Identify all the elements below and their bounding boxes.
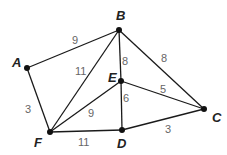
- edge-f-d: [50, 130, 122, 132]
- edge-weight-f-d: 11: [78, 136, 89, 148]
- edge-weight-b-e: 8: [122, 55, 128, 67]
- edge-b-e: [119, 30, 121, 81]
- node-f: [47, 129, 53, 135]
- edge-weight-e-d: 6: [123, 92, 129, 104]
- node-e: [118, 78, 124, 84]
- edge-weight-e-c: 5: [160, 83, 166, 95]
- edge-weight-b-c: 8: [161, 52, 167, 64]
- edge-d-c: [122, 109, 204, 130]
- edge-weight-d-c: 3: [165, 123, 171, 135]
- node-label-f: F: [34, 135, 43, 150]
- edge-e-f: [50, 81, 121, 132]
- edge-weight-a-b: 9: [72, 34, 78, 46]
- edge-b-c: [119, 30, 204, 109]
- node-label-a: A: [11, 55, 21, 70]
- node-label-c: C: [212, 110, 222, 125]
- edge-a-f: [27, 68, 50, 132]
- edge-e-d: [121, 81, 122, 130]
- node-c: [201, 106, 207, 112]
- edge-weight-b-f: 11: [75, 65, 86, 77]
- edge-weight-a-f: 3: [25, 103, 31, 115]
- node-label-e: E: [108, 70, 117, 85]
- node-d: [119, 127, 125, 133]
- node-b: [116, 27, 122, 33]
- edge-weight-e-f: 9: [88, 107, 94, 119]
- node-label-b: B: [116, 8, 125, 23]
- node-label-d: D: [117, 136, 127, 151]
- weighted-graph: 931188569113 ABCDEF: [0, 0, 227, 155]
- node-a: [24, 65, 30, 71]
